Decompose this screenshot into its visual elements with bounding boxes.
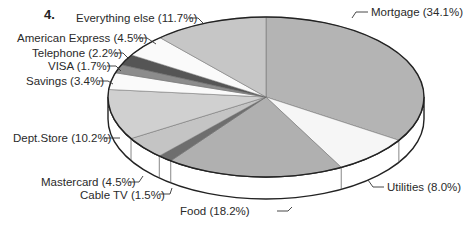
svg-text:American Express (4.5%): American Express (4.5%) <box>17 32 148 44</box>
label-food: Food (18.2%) <box>180 205 292 217</box>
label-mortgage: Mortgage (34.1%) <box>352 6 463 18</box>
svg-text:Dept.Store (10.2%): Dept.Store (10.2%) <box>13 132 112 144</box>
figure-number: 4. <box>44 7 55 22</box>
svg-text:Everything else (11.7%): Everything else (11.7%) <box>76 12 197 24</box>
svg-text:Telephone (2.2%): Telephone (2.2%) <box>32 47 122 59</box>
label-everything-else: Everything else (11.7%) <box>76 12 203 24</box>
label-telephone: Telephone (2.2%) <box>32 47 129 59</box>
svg-text:Mastercard (4.5%): Mastercard (4.5%) <box>41 176 136 188</box>
label-dept-store: Dept.Store (10.2%) <box>13 132 120 144</box>
label-savings: Savings (3.4%) <box>26 75 113 87</box>
label-mastercard: Mastercard (4.5%) <box>41 176 143 188</box>
svg-text:Mortgage (34.1%): Mortgage (34.1%) <box>371 6 463 18</box>
label-visa: VISA (1.7%) <box>48 60 121 72</box>
svg-text:Cable TV (1.5%): Cable TV (1.5%) <box>80 189 165 201</box>
svg-text:Food (18.2%): Food (18.2%) <box>180 205 250 217</box>
pie-slices <box>108 17 424 177</box>
label-utilities: Utilities (8.0%) <box>368 180 461 193</box>
label-american-express: American Express (4.5%) <box>17 32 156 44</box>
label-cable-tv: Cable TV (1.5%) <box>80 188 172 201</box>
svg-text:VISA (1.7%): VISA (1.7%) <box>48 60 111 72</box>
svg-text:Savings (3.4%): Savings (3.4%) <box>26 75 104 87</box>
svg-text:Utilities (8.0%): Utilities (8.0%) <box>387 181 461 193</box>
pie-chart: 4. Mortgage (34.1%) Utilities (8.0%) Foo… <box>0 0 465 230</box>
